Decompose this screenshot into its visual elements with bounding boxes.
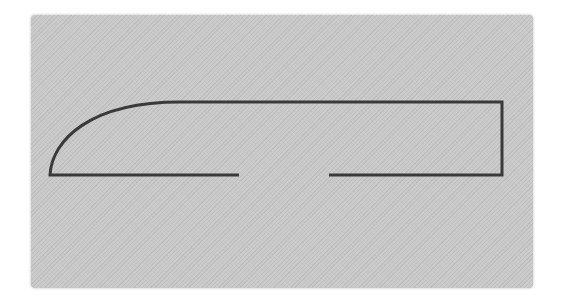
outline-diagram <box>0 0 569 297</box>
outline-shape-path <box>50 102 502 175</box>
figure-canvas <box>0 0 569 297</box>
